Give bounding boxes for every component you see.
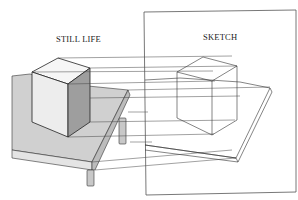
table-leg-front	[87, 170, 94, 186]
sketch-table-edge	[236, 88, 272, 162]
table-leg-back	[119, 118, 126, 144]
still-life-label: STILL LIFE	[56, 34, 101, 44]
sketch-cube-top	[177, 57, 237, 81]
still-life-group	[12, 58, 130, 186]
perspective-diagram	[0, 0, 298, 200]
sketch-table-top	[145, 78, 270, 158]
sketch-group	[145, 57, 272, 162]
sketch-label: SKETCH	[203, 32, 237, 42]
